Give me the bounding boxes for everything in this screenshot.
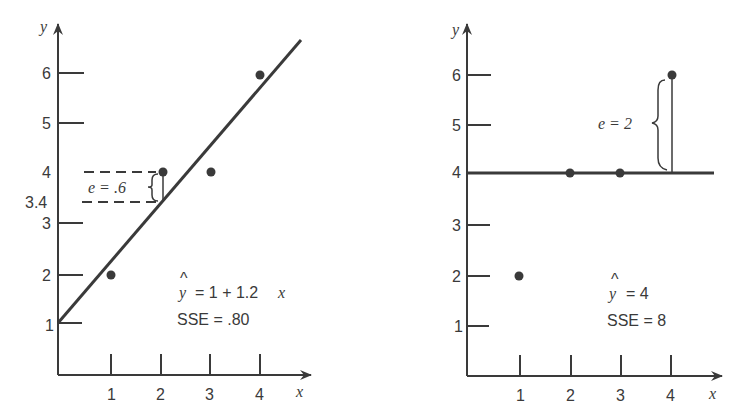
left-x-ticks [111,354,260,375]
left-y-tick-6: 6 [42,65,51,82]
right-y-tick-2: 2 [452,268,461,285]
right-y-ticks [467,75,491,326]
right-chart: y x 6 5 4 3 2 1 1 2 3 4 e = 2 [450,21,722,404]
right-y-tick-1: 1 [454,318,463,335]
right-x-axis-name: x [708,385,716,402]
right-y-tick-3: 3 [452,217,461,234]
left-x-tick-4: 4 [255,386,264,403]
right-y-tick-6: 6 [452,67,461,84]
right-x-tick-1: 1 [516,387,525,404]
left-residual-brace [148,174,158,201]
right-x-tick-2: 2 [566,387,575,404]
left-y-tick-5: 5 [42,115,51,132]
left-point-2-4 [159,168,168,177]
right-y-tick-4: 4 [452,164,461,181]
left-point-1-2 [107,271,116,280]
right-point-4-6 [668,71,677,80]
right-x-tick-4: 4 [666,387,675,404]
left-chart: y x 6 5 4 3.4 3 2 1 1 2 3 4 [25,18,311,403]
left-point-4-6 [256,71,265,80]
left-y-tick-3-4: 3.4 [25,194,47,211]
figure: y x 6 5 4 3.4 3 2 1 1 2 3 4 [0,0,739,419]
left-equation: ^ y = 1 + 1.2 x [177,270,285,302]
right-eq-y: y [607,285,617,303]
left-eq-rhs: = 1 + 1.2 [195,284,258,301]
left-y-tick-1: 1 [45,317,54,334]
right-equation: ^ y = 4 [607,271,649,303]
left-y-tick-2: 2 [42,267,51,284]
right-x-ticks [520,355,671,376]
left-x-tick-1: 1 [107,386,116,403]
right-data-points [515,71,677,281]
right-eq-rhs: = 4 [626,285,649,302]
left-x-axis-name: x [295,383,303,400]
right-y-axis-name: y [450,21,460,39]
right-point-2-4 [566,169,575,178]
right-y-tick-5: 5 [452,117,461,134]
left-y-ticks [58,73,84,323]
right-sse: SSE = 8 [607,312,666,329]
right-residual-brace [652,80,667,170]
left-x-tick-2: 2 [156,386,165,403]
left-sse: SSE = .80 [177,311,250,328]
right-residual-label: e = 2 [598,115,632,132]
left-y-tick-4: 4 [42,164,51,181]
left-eq-var: x [277,284,285,301]
left-residual-label: e = .6 [88,179,126,196]
right-x-tick-3: 3 [616,387,625,404]
left-eq-y: y [177,284,187,302]
right-point-1-2 [515,272,524,281]
left-x-tick-3: 3 [205,386,214,403]
right-point-3-4 [616,169,625,178]
left-point-3-4 [207,168,216,177]
left-y-axis-name: y [38,18,48,36]
left-y-tick-3: 3 [42,215,51,232]
